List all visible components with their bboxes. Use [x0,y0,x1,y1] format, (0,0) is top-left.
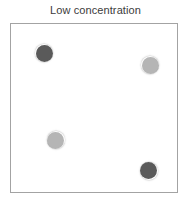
figure-root: Low concentration [0,0,191,202]
particle-container [10,23,178,193]
particle-dark-bottom-right [140,162,157,179]
particle-light-middle-left [47,132,64,149]
particle-light-top-right [142,57,159,74]
particle-dark-top-left [36,45,53,62]
page-title: Low concentration [0,3,191,17]
